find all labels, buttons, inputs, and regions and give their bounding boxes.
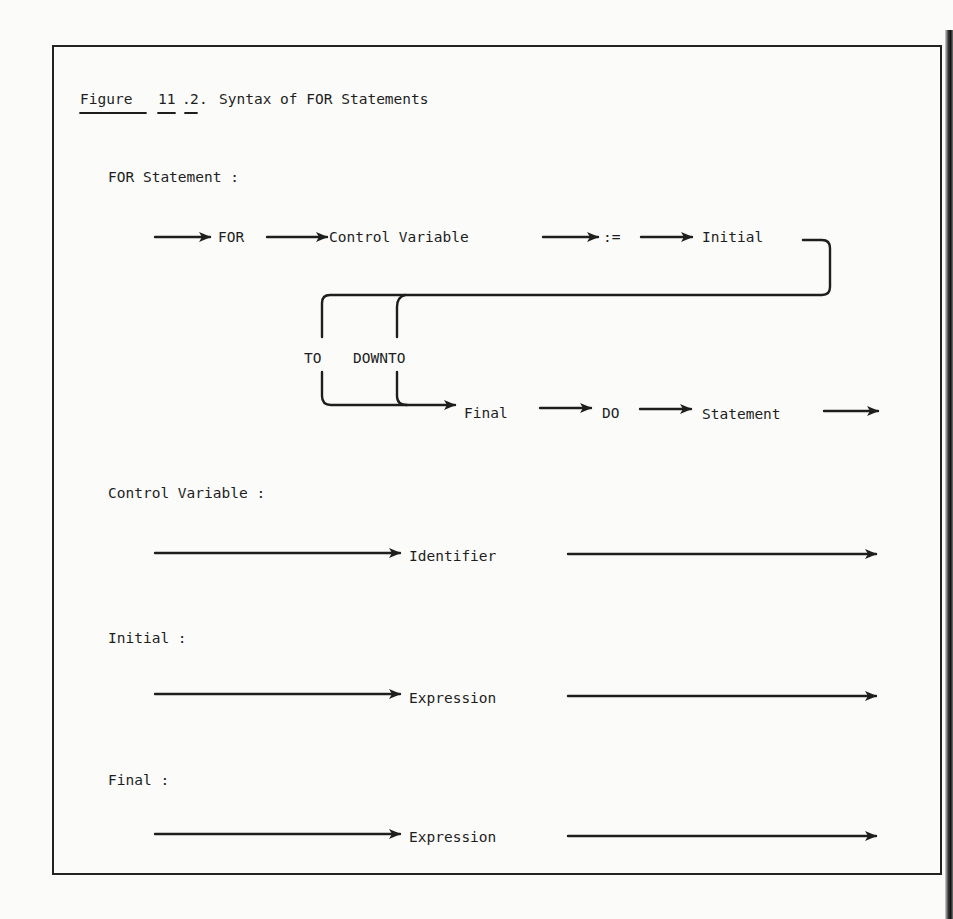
node-initial-expression: Expression — [409, 690, 496, 706]
node-do: DO — [602, 405, 619, 421]
node-assign: := — [603, 229, 621, 245]
node-downto: DOWNTO — [353, 350, 405, 366]
syntax-diagram: Figure 11 . 2 . Syntax of FOR Statements… — [0, 0, 953, 919]
node-identifier: Identifier — [409, 548, 497, 564]
node-statement: Statement — [702, 406, 781, 422]
node-to: TO — [304, 350, 321, 366]
node-control-variable: Control Variable — [329, 229, 469, 245]
branch-line-to — [322, 372, 455, 405]
figure-dot-2: . — [199, 91, 208, 107]
final-diagram: Final : Expression — [108, 772, 876, 845]
final-heading: Final : — [108, 772, 169, 788]
control-variable-heading: Control Variable : — [108, 485, 265, 501]
for-statement-heading: FOR Statement : — [108, 169, 239, 185]
initial-heading: Initial : — [108, 630, 187, 646]
control-variable-diagram: Control Variable : Identifier — [108, 485, 876, 564]
figure-label: Figure — [80, 91, 132, 107]
branch-line-downto — [397, 372, 407, 405]
for-statement-diagram: FOR Statement : FOR Control Variable := … — [108, 169, 878, 422]
initial-diagram: Initial : Expression — [108, 630, 876, 706]
node-for: FOR — [218, 229, 244, 245]
node-initial: Initial — [702, 229, 763, 245]
figure-chapter-number: 11 — [158, 91, 175, 107]
node-final-expression: Expression — [409, 829, 496, 845]
wrap-line-downto — [397, 295, 405, 337]
figure-caption: Figure 11 . 2 . Syntax of FOR Statements — [80, 91, 429, 113]
node-final: Final — [464, 405, 508, 421]
figure-index-number: 2 — [190, 91, 199, 107]
figure-title: Syntax of FOR Statements — [219, 91, 429, 107]
